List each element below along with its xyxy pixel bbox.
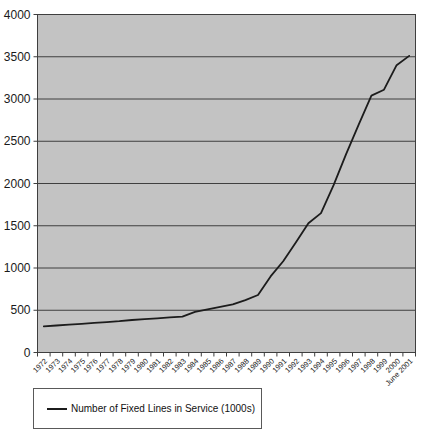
line-chart-canvas: 0500100015002000250030003500400019721973… xyxy=(0,0,424,445)
y-axis-label: 4000 xyxy=(4,8,31,22)
y-axis-label: 1500 xyxy=(4,219,31,233)
y-axis-label: 3000 xyxy=(4,92,31,106)
chart-container: 0500100015002000250030003500400019721973… xyxy=(0,0,424,445)
y-axis-label: 2500 xyxy=(4,134,31,148)
y-axis-label: 0 xyxy=(24,346,31,360)
y-axis-label: 3500 xyxy=(4,50,31,64)
y-axis-label: 1000 xyxy=(4,261,31,275)
legend-line-marker xyxy=(47,408,67,410)
y-axis-label: 2000 xyxy=(4,177,31,191)
legend-box: Number of Fixed Lines in Service (1000s) xyxy=(33,388,262,429)
y-axis-label: 500 xyxy=(10,303,30,317)
legend-series-label: Number of Fixed Lines in Service (1000s) xyxy=(71,403,255,414)
